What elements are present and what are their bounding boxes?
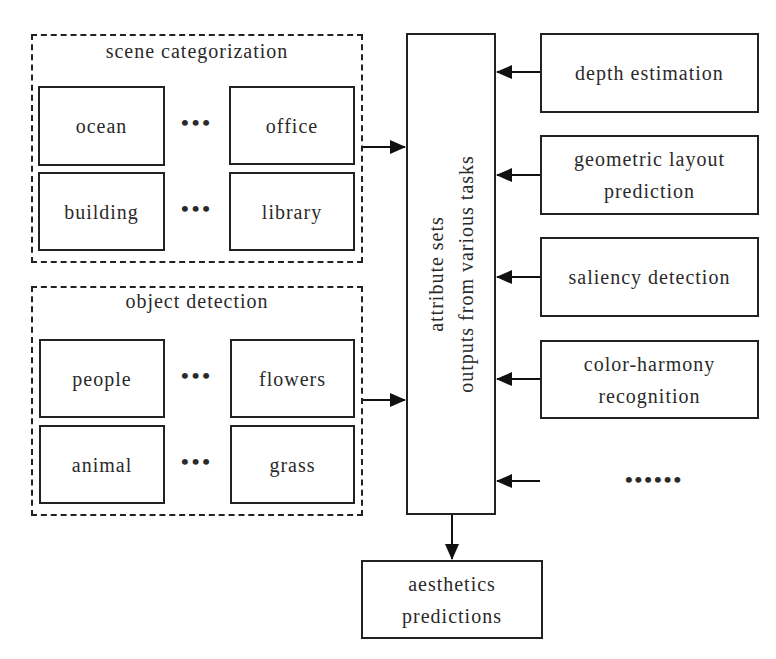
connector-arrows (0, 0, 776, 659)
